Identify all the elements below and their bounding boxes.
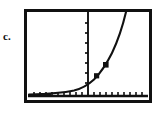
panel-label: c. bbox=[3, 30, 11, 42]
data-point-marker bbox=[103, 62, 109, 68]
data-point-marker bbox=[94, 73, 99, 78]
axis-highlight-segment bbox=[40, 93, 51, 95]
calculator-screen bbox=[24, 9, 152, 103]
graph-canvas bbox=[24, 9, 152, 103]
figure-panel: c. bbox=[0, 0, 158, 115]
